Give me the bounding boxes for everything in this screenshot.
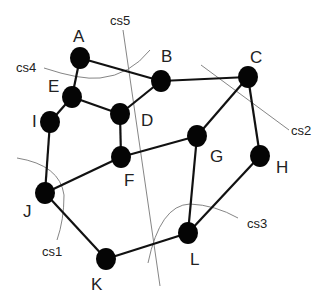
edge-F-J [45,157,121,193]
edge-B-C [161,77,248,81]
node-C [238,66,258,88]
node-label-D: D [141,111,153,130]
node-label-A: A [73,27,85,46]
node-label-J: J [23,202,32,221]
node-K [96,248,116,270]
node-F [111,146,131,168]
node-label-K: K [91,275,103,294]
node-label-H: H [276,158,288,177]
edge-A-B [80,58,161,81]
cut-label-cs4: cs4 [16,60,36,75]
cut-label-cs3: cs3 [247,216,267,231]
node-label-I: I [32,112,37,131]
edge-C-H [248,77,260,156]
node-A [70,47,90,69]
edge-G-L [188,136,197,233]
node-label-E: E [48,77,59,96]
edge-F-G [121,136,197,157]
node-H [250,145,270,167]
cut-label-cs5: cs5 [110,13,130,28]
node-E [62,86,82,108]
node-D [110,103,130,125]
cut-label-cs2: cs2 [291,123,311,138]
node-L [178,222,198,244]
node-label-G: G [210,147,223,166]
graph-diagram: cs1cs2cs3cs4cs5ABCDEIFGHJKL [0,0,329,304]
cut-label-cs1: cs1 [42,244,62,259]
node-G [187,125,207,147]
node-J [35,182,55,204]
edge-G-C [197,77,248,136]
node-label-B: B [161,47,172,66]
node-I [40,111,60,133]
node-label-F: F [124,171,134,190]
node-label-L: L [190,250,199,269]
node-B [151,70,171,92]
edge-K-L [106,233,188,259]
node-label-C: C [250,48,262,67]
